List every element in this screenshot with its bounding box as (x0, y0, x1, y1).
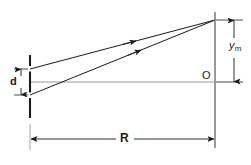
ray-from-lower-slit (30, 20, 215, 95)
label-fringe-height-ym: ym (229, 40, 241, 53)
label-ym-subscript: m (235, 44, 242, 53)
label-ym-base: y (229, 39, 235, 51)
label-center-point-O: O (202, 70, 211, 81)
double-slit-geometry-figure: d R O ym (0, 0, 251, 165)
ray-from-upper-slit (30, 20, 215, 69)
label-screen-distance-R: R (120, 132, 129, 144)
label-slit-separation-d: d (10, 76, 17, 87)
